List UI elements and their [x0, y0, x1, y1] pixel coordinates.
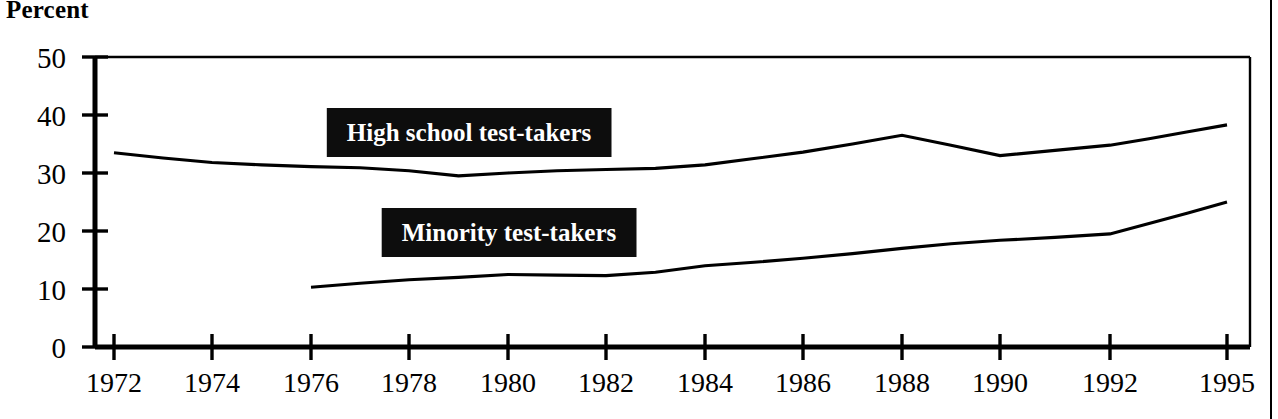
page-border-rule: [1270, 0, 1272, 419]
y-axis-tick-labels: 50 40 30 20 10 0: [37, 42, 66, 364]
x-tick-label: 1972: [86, 367, 142, 398]
x-tick-label: 1976: [283, 367, 339, 398]
y-tick-label: 10: [37, 274, 66, 306]
annotation-label: Minority test-takers: [402, 219, 617, 246]
y-tick-label: 20: [37, 216, 66, 248]
x-axis-tick-labels: 1972 1974 1976 1978 1980 1982 1984 1986 …: [86, 367, 1255, 398]
plot-frame: [95, 57, 1250, 347]
x-tick-label: 1992: [1082, 367, 1138, 398]
x-tick-label: 1974: [184, 367, 240, 398]
series-line-high-school: [114, 125, 1227, 176]
annotation-minority: Minority test-takers: [382, 208, 637, 257]
x-tick-label: 1980: [480, 367, 536, 398]
y-tick-label: 40: [37, 100, 66, 132]
annotation-high-school: High school test-takers: [327, 108, 612, 157]
line-chart: 50 40 30 20 10 0 1972 1974 1976 1978: [0, 0, 1278, 419]
x-tick-label: 1984: [677, 367, 733, 398]
chart-page: Percent 50 40 30 20 10 0: [0, 0, 1278, 419]
x-tick-label: 1995: [1199, 367, 1255, 398]
x-tick-label: 1982: [578, 367, 634, 398]
y-tick-label: 50: [37, 42, 66, 74]
x-tick-label: 1990: [972, 367, 1028, 398]
y-tick-label: 0: [52, 332, 67, 364]
x-tick-label: 1986: [775, 367, 831, 398]
x-tick-label: 1978: [381, 367, 437, 398]
x-tick-label: 1988: [874, 367, 930, 398]
annotation-label: High school test-takers: [347, 119, 592, 146]
y-tick-label: 30: [37, 158, 66, 190]
